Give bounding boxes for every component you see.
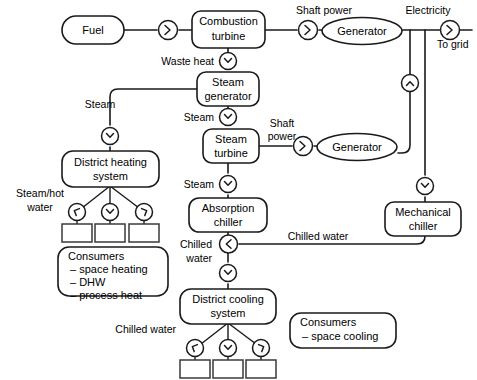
label-shaft-power-bottom-line1: Shaft [270, 117, 295, 129]
district-heating-branch-center-arrow-icon [102, 204, 119, 221]
heating-terminal-boxes [62, 224, 159, 242]
district-cooling-branch-right-arrow-icon [253, 340, 270, 357]
district-heating-branch-left-arrow-icon [69, 204, 86, 221]
heating-terminal-box-3 [129, 224, 159, 242]
consumers-heat-item-0: – space heating [70, 263, 148, 275]
district-heating-label-line1: District heating [74, 156, 147, 168]
district-cooling-branch-left-arrow-icon [187, 340, 204, 357]
combustion-turbine-label-line2: turbine [212, 30, 246, 42]
label-chilled-water-vertical-line1: Chilled [180, 238, 212, 250]
node-consumers-cool[interactable]: Consumers – space cooling [290, 313, 396, 348]
fuel-to-turbine-arrow-icon [159, 21, 178, 40]
label-steam-hot-water-line1: Steam/hot [16, 187, 64, 199]
steam-to-district-heating-arrow-icon [102, 128, 119, 145]
chilled-water-to-district-cooling-arrow-icon [220, 265, 237, 282]
label-chilled-water-horizontal: Chilled water [288, 230, 349, 242]
label-waste-heat: Waste heat [161, 55, 214, 67]
mechanical-chiller-label-line1: Mechanical [395, 206, 451, 218]
to-grid-arrow-icon [441, 21, 460, 40]
node-steam-generator[interactable]: Steam generator [197, 72, 259, 106]
steam-to-steam-turbine-arrow-icon [220, 109, 237, 126]
consumers-heat-item-1: – DHW [70, 276, 106, 288]
cooling-terminal-box-1 [180, 360, 210, 378]
node-district-heating-system[interactable]: District heating system [62, 151, 159, 187]
generator-top-label: Generator [337, 25, 387, 37]
label-electricity: Electricity [406, 4, 452, 16]
consumers-heat-title: Consumers [68, 250, 125, 262]
heating-terminal-box-1 [62, 224, 92, 242]
waste-heat-arrow-icon [220, 53, 237, 70]
cooling-terminal-boxes [180, 360, 276, 378]
node-steam-turbine[interactable]: Steam turbine [203, 129, 259, 163]
district-cooling-branch-center-arrow-icon [220, 340, 237, 357]
steam-to-absorption-chiller-arrow-icon [220, 176, 237, 193]
label-shaft-power-top: Shaft power [296, 4, 353, 16]
node-mechanical-chiller[interactable]: Mechanical chiller [385, 202, 461, 236]
combustion-turbine-label-line1: Combustion [199, 15, 258, 27]
cooling-terminal-box-2 [213, 360, 243, 378]
node-generator-top[interactable]: Generator [322, 18, 402, 45]
node-district-cooling-system[interactable]: District cooling system [180, 289, 276, 324]
generator-bottom-electricity-arrow-icon [402, 75, 419, 92]
district-cooling-label-line1: District cooling [192, 293, 264, 305]
heating-terminal-box-2 [95, 224, 125, 242]
steam-generator-label-line1: Steam [212, 76, 244, 88]
node-consumers-heat[interactable]: Consumers – space heating – DHW – proces… [58, 247, 168, 301]
label-steam-to-turbine: Steam [184, 111, 215, 123]
consumers-cool-title: Consumers [300, 316, 357, 328]
label-steam-to-absorption: Steam [184, 178, 215, 190]
steam-generator-label-line2: generator [204, 90, 251, 102]
label-shaft-power-bottom-line2: power [268, 130, 297, 142]
node-fuel[interactable]: Fuel [62, 16, 124, 44]
label-to-grid: To grid [437, 38, 469, 50]
label-chilled-water-consumers: Chilled water [115, 323, 176, 335]
node-absorption-chiller[interactable]: Absorption chiller [189, 198, 267, 232]
turbine-to-generator-arrow-icon [299, 21, 318, 40]
steam-turbine-to-generator-arrow-icon [294, 137, 313, 156]
electricity-to-mechanical-chiller-arrow-icon [417, 178, 434, 195]
district-cooling-label-line2: system [211, 307, 246, 319]
absorption-chiller-label-line2: chiller [214, 216, 243, 228]
mechanical-chiller-chilled-water-arrow-icon [220, 235, 238, 253]
label-steam-hot-water-line2: water [26, 201, 53, 213]
fuel-label: Fuel [82, 24, 103, 36]
cooling-terminal-box-3 [246, 360, 276, 378]
steam-turbine-label-line1: Steam [215, 133, 247, 145]
energy-flow-diagram: Fuel Combustion turbine Generator Steam … [0, 0, 477, 380]
generator-bottom-label: Generator [332, 141, 382, 153]
consumers-heat-item-2: – process heat [70, 289, 142, 301]
district-heating-label-line2: system [93, 170, 128, 182]
absorption-chiller-label-line1: Absorption [202, 202, 255, 214]
consumers-cool-item-0: – space cooling [302, 330, 378, 342]
node-combustion-turbine[interactable]: Combustion turbine [192, 11, 265, 48]
label-chilled-water-vertical-line2: water [185, 252, 212, 264]
label-steam-to-district: Steam [85, 98, 116, 110]
district-heating-branch-right-arrow-icon [136, 204, 153, 221]
node-generator-bottom[interactable]: Generator [317, 134, 397, 161]
steam-turbine-label-line2: turbine [214, 147, 248, 159]
diagram-canvas: Fuel Combustion turbine Generator Steam … [0, 0, 477, 380]
mechanical-chiller-label-line2: chiller [409, 220, 438, 232]
